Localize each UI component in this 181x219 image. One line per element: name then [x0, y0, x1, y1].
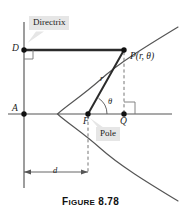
theta-angle-arc: [99, 98, 108, 114]
label-point-a: A: [12, 104, 18, 114]
dimension-arrowhead-left: [24, 169, 31, 174]
point-dot-d: [21, 47, 26, 52]
dimension-arrowhead-right: [81, 169, 88, 174]
directrix-callout-label: Directrix: [29, 16, 69, 30]
figure-container: Directrix Pole D A F Q P(r, θ) r θ d FIG…: [0, 0, 181, 219]
directrix-callout-tail: [28, 32, 45, 44]
label-radius-r: r: [100, 74, 103, 83]
conic-polar-diagram: [0, 0, 181, 219]
point-dot-a: [21, 111, 26, 116]
segment-radius-f-to-p: [88, 50, 124, 114]
caption-igure: IGURE: [68, 198, 95, 207]
label-theta: θ: [108, 97, 112, 106]
figure-caption: FIGURE 8.78: [0, 196, 181, 207]
label-point-q: Q: [120, 117, 127, 127]
pole-callout-label: Pole: [96, 127, 120, 141]
label-point-p: P(r, θ): [130, 52, 154, 62]
label-point-f: F: [83, 117, 89, 127]
point-dot-p: [121, 47, 126, 52]
caption-number: 8.78: [98, 196, 119, 207]
label-distance-d: d: [53, 166, 57, 175]
label-point-d: D: [12, 44, 19, 54]
